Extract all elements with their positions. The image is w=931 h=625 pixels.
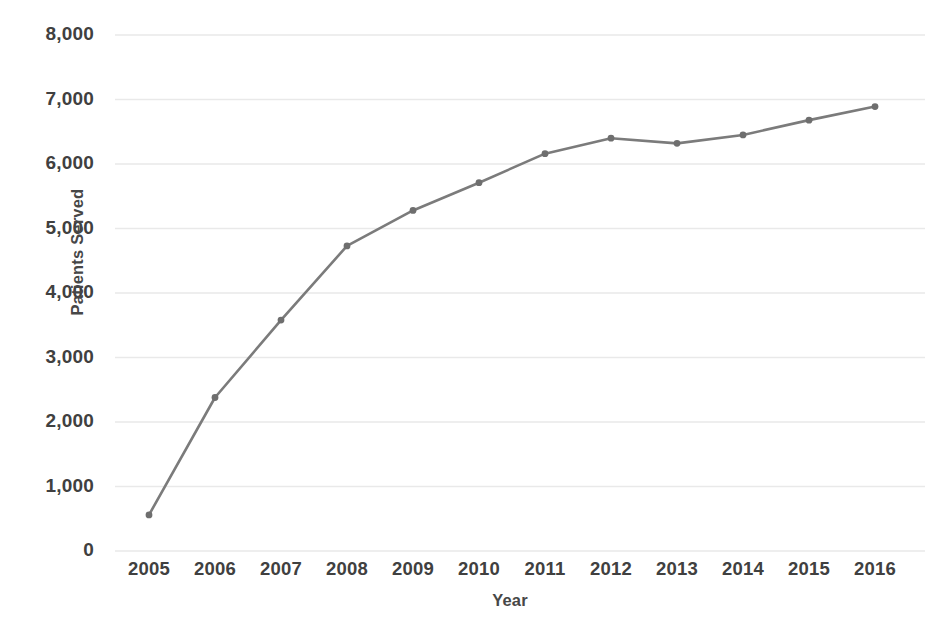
data-point — [212, 394, 219, 401]
y-axis-title: Patients Served — [68, 182, 90, 322]
x-axis-tick-label: 2016 — [842, 558, 908, 580]
data-point — [410, 207, 417, 214]
data-point — [806, 117, 813, 124]
data-point — [542, 150, 549, 157]
data-point — [674, 140, 681, 147]
x-axis-tick-label: 2011 — [512, 558, 578, 580]
x-axis-tick-label: 2005 — [116, 558, 182, 580]
x-axis-tick-label: 2006 — [182, 558, 248, 580]
data-point — [872, 103, 879, 110]
x-axis-title: Year — [450, 591, 570, 610]
x-axis-tick-label: 2012 — [578, 558, 644, 580]
x-axis-tick-label: 2010 — [446, 558, 512, 580]
x-axis-tick-label: 2007 — [248, 558, 314, 580]
y-axis-tick-label: 7,000 — [10, 88, 94, 110]
y-axis-tick-label: 6,000 — [10, 152, 94, 174]
line-chart: 8,0007,0006,0005,0004,0003,0002,0001,000… — [0, 0, 931, 625]
y-axis-tick-label: 0 — [10, 539, 94, 561]
y-axis-tick-label: 8,000 — [10, 23, 94, 45]
data-point — [344, 243, 351, 250]
data-point — [476, 179, 483, 186]
x-axis-tick-label: 2014 — [710, 558, 776, 580]
y-axis-tick-label: 3,000 — [10, 346, 94, 368]
data-point — [740, 132, 747, 139]
y-axis-tick-label: 1,000 — [10, 475, 94, 497]
x-axis-tick-label: 2008 — [314, 558, 380, 580]
series-line-patients-served — [149, 107, 875, 515]
data-point — [146, 511, 153, 518]
x-axis-tick-label: 2013 — [644, 558, 710, 580]
gridlines — [115, 35, 925, 551]
y-axis-tick-label: 2,000 — [10, 410, 94, 432]
x-axis-tick-label: 2015 — [776, 558, 842, 580]
data-point-markers — [146, 103, 879, 518]
x-axis-tick-label: 2009 — [380, 558, 446, 580]
plot-area — [0, 0, 931, 625]
data-point — [278, 317, 285, 324]
data-point — [608, 135, 615, 142]
